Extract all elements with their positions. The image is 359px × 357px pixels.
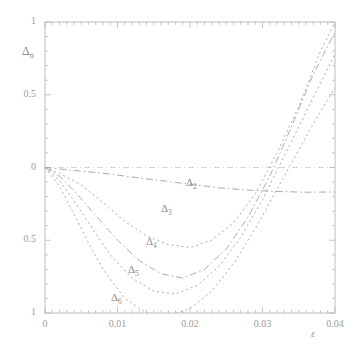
y-tick-label-4: 1 [6, 306, 36, 317]
curve-label-sub: 6 [118, 297, 122, 306]
y-tick-label-1: 0.5 [6, 88, 36, 99]
curve-label-sub: 5 [135, 269, 139, 278]
figure-canvas: Δn ε 10.500.51 00.010.020.030.04 Δ2Δ3Δ4Δ… [0, 0, 359, 357]
y-tick-label-3: 0.5 [6, 233, 36, 244]
curve-label-sub: 4 [153, 241, 157, 250]
plot-svg [0, 0, 359, 357]
x-tick-label-1: 0.01 [98, 318, 138, 329]
x-tick-label-3: 0.03 [243, 318, 283, 329]
y-tick-label-0: 1 [6, 15, 36, 26]
x-tick-label-0: 0 [25, 318, 65, 329]
data-curves [45, 22, 335, 316]
curve-label-sub: 2 [193, 182, 197, 191]
y-tick-label-2: 0 [6, 161, 36, 172]
curve-label-Δ5: Δ5 [128, 263, 139, 278]
y-axis-label: Δn [22, 44, 34, 60]
curve-Δ5 [45, 54, 335, 294]
curve-label-Δ6: Δ6 [111, 291, 122, 306]
curve-Δ3 [45, 22, 335, 248]
y-axis-label-sub: n [30, 51, 34, 60]
curve-label-Δ2: Δ2 [186, 176, 197, 191]
curve-label-Δ3: Δ3 [161, 202, 172, 217]
y-axis-label-base: Δ [22, 44, 30, 58]
curve-Δ4 [45, 32, 335, 278]
curve-label-Δ4: Δ4 [146, 235, 157, 250]
curve-label-sub: 3 [168, 208, 172, 217]
x-tick-label-4: 0.04 [315, 318, 355, 329]
x-tick-label-2: 0.02 [170, 318, 210, 329]
